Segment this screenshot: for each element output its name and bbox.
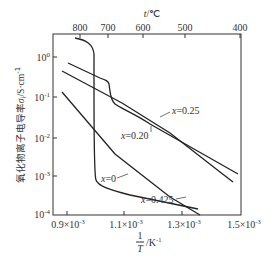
top-tick-label: 800	[73, 22, 88, 33]
x-axis-title: 1 T /K-1	[136, 230, 161, 254]
svg-text:/K-1: /K-1	[146, 236, 161, 248]
label-x-0: x=0	[100, 173, 116, 184]
y-axis: 100 10-1 10-2 10-3 10-4	[34, 51, 57, 220]
x-tick-label: 0.9×10-3	[51, 218, 85, 230]
top-tick-label: 500	[178, 22, 193, 33]
svg-text:T: T	[137, 243, 144, 254]
y-tick-label: 10-2	[34, 132, 50, 144]
top-axis-title: t/℃	[144, 8, 161, 19]
y-axis-title: 氧化物离子电导率σi/S·cm-1	[14, 67, 28, 183]
x-tick-label: 1.1×10-3	[109, 218, 143, 230]
label-x-0-20: x=0.20	[120, 130, 149, 141]
y-tick-label: 10-3	[34, 170, 50, 182]
y-tick-label: 10-1	[34, 91, 50, 103]
svg-text:1: 1	[138, 230, 143, 241]
top-tick-label: 700	[101, 22, 116, 33]
x-tick-label: 1.3×10-3	[167, 218, 201, 230]
x-tick-label: 1.5×10-3	[227, 218, 261, 230]
y-tick-label: 10-4	[34, 208, 50, 220]
curve-x-0	[75, 38, 198, 209]
plot-frame	[53, 34, 241, 215]
conductivity-chart: t/℃ 800 700 600 500 400 100 10-1 10-2 10…	[0, 0, 271, 261]
label-x-0-425: x=0.425	[140, 194, 174, 205]
top-axis: 800 700 600 500 400	[73, 22, 248, 38]
curve-x-0-20	[62, 71, 233, 182]
label-x-0-25: x=0.25	[171, 105, 200, 116]
top-tick-label: 600	[136, 22, 151, 33]
top-tick-label: 400	[233, 22, 248, 33]
y-tick-label: 100	[37, 51, 51, 63]
x-axis: 0.9×10-3 1.1×10-3 1.3×10-3 1.5×10-3	[51, 211, 261, 230]
